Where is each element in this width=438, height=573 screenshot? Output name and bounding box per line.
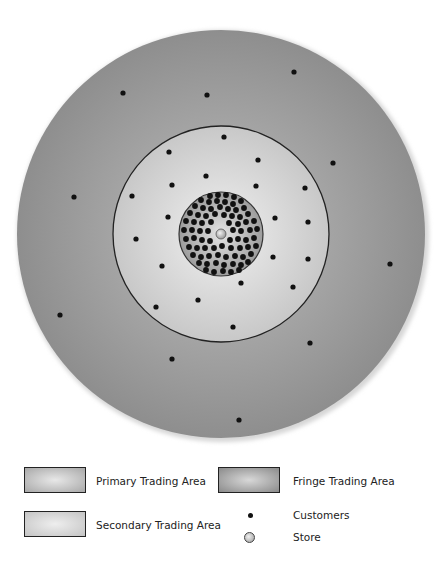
customer-dot <box>235 221 241 227</box>
customer-dot <box>245 259 251 265</box>
customer-dot <box>202 245 208 251</box>
customer-dot <box>227 237 233 243</box>
customer-dot <box>230 201 236 207</box>
customer-dot <box>208 206 214 212</box>
customer-dot <box>251 235 257 241</box>
customer-dot <box>194 245 200 251</box>
customer-dot <box>204 92 209 97</box>
customer-dot <box>254 226 260 232</box>
customer-dot <box>302 185 307 190</box>
customer-dot <box>236 267 242 273</box>
store-marker <box>216 229 226 239</box>
customer-dot <box>187 210 193 216</box>
customer-dot <box>243 219 249 225</box>
customer-dot <box>192 203 198 209</box>
customer-dot <box>230 261 236 267</box>
customer-dot <box>195 212 201 218</box>
customer-dot <box>237 245 243 251</box>
customer-dot <box>120 90 125 95</box>
customer-dot <box>232 253 238 259</box>
customer-dot <box>237 214 243 220</box>
customer-dot <box>221 262 227 268</box>
customer-dot <box>212 211 218 217</box>
customer-dot <box>198 197 204 203</box>
customer-dot <box>236 417 241 422</box>
customer-dot <box>238 228 244 234</box>
customer-dot <box>387 261 392 266</box>
legend-fringe-label: Fringe Trading Area <box>293 475 395 487</box>
customer-dot <box>133 236 138 241</box>
customer-dot <box>240 254 246 260</box>
customer-dot <box>221 212 227 218</box>
customer-dot <box>221 134 226 139</box>
customer-dot <box>245 211 251 217</box>
customer-dot <box>207 193 213 199</box>
customer-dot <box>231 194 237 200</box>
customer-dot-icon <box>248 513 253 518</box>
customer-dot <box>248 251 254 257</box>
customer-dot <box>165 214 170 219</box>
customer-dot <box>222 199 228 205</box>
customer-dot <box>223 254 229 260</box>
customer-dot <box>247 227 253 233</box>
customer-dot <box>243 237 249 243</box>
customer-dot <box>215 192 221 198</box>
customer-dot <box>205 228 211 234</box>
customer-dot <box>255 157 260 162</box>
customer-dot <box>215 252 221 258</box>
customer-dot <box>226 220 232 226</box>
customer-dot <box>206 199 212 205</box>
customer-dot <box>199 237 205 243</box>
customer-dot <box>228 245 234 251</box>
customer-dot <box>220 268 226 274</box>
customer-dot <box>238 262 244 268</box>
customer-dot <box>197 228 203 234</box>
customer-dot <box>208 219 214 225</box>
customer-dot <box>245 244 251 250</box>
customer-dot <box>211 269 217 275</box>
legend-store-label: Store <box>293 531 321 543</box>
customer-dot <box>229 213 235 219</box>
customer-dot <box>169 182 174 187</box>
legend-primary-label: Primary Trading Area <box>96 475 206 487</box>
customer-dot <box>189 227 195 233</box>
legend-customers-label: Customers <box>293 509 349 521</box>
customer-dot <box>305 256 310 261</box>
customer-dot <box>186 244 192 250</box>
customer-dot <box>196 260 202 266</box>
customer-dot <box>230 227 236 233</box>
legend-secondary-swatch <box>24 511 86 537</box>
customer-dot <box>213 260 219 266</box>
customer-dot <box>235 236 241 242</box>
customer-dot <box>169 356 174 361</box>
customer-dot <box>230 324 235 329</box>
customer-dot <box>238 280 243 285</box>
legend-fringe-swatch <box>218 467 280 493</box>
customer-dot <box>166 149 171 154</box>
customer-dot <box>251 218 257 224</box>
customer-dot <box>253 183 258 188</box>
customer-dot <box>71 194 76 199</box>
customer-dot <box>290 284 295 289</box>
customer-dot <box>238 198 244 204</box>
trading-area-diagram <box>0 0 438 460</box>
customer-dot <box>195 297 200 302</box>
customer-dot <box>190 252 196 258</box>
customer-dot <box>214 198 220 204</box>
customer-dot <box>191 219 197 225</box>
customer-dot <box>233 207 239 213</box>
customer-dot <box>217 204 223 210</box>
customer-dot <box>200 205 206 211</box>
customer-dot <box>219 243 225 249</box>
customer-dot <box>206 253 212 259</box>
customer-dot <box>181 227 187 233</box>
customer-dot <box>153 304 158 309</box>
customer-dot <box>211 245 217 251</box>
customer-dot <box>183 218 189 224</box>
customer-dot <box>183 236 189 242</box>
legend-primary-swatch <box>24 467 86 493</box>
customer-dot <box>228 269 234 275</box>
customer-dot <box>203 267 209 273</box>
legend-secondary-label: Secondary Trading Area <box>96 519 221 531</box>
customer-dot <box>203 173 208 178</box>
